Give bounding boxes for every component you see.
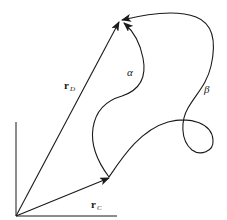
label-r-c: rC: [91, 199, 102, 212]
label-r-c-subscript: C: [97, 204, 102, 212]
label-r-c-main: r: [91, 198, 96, 210]
vector-r-d: [16, 22, 119, 216]
diagram-canvas: [0, 0, 227, 220]
label-r-d: rD: [64, 80, 75, 93]
label-r-d-main: r: [64, 79, 69, 91]
path-alpha: [92, 23, 144, 177]
label-beta: β: [204, 84, 209, 95]
label-r-d-subscript: D: [70, 85, 75, 93]
label-alpha: α: [127, 67, 133, 78]
